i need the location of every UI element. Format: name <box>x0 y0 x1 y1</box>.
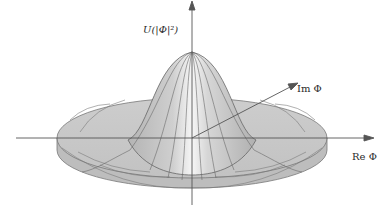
potential-diagram: U(|Φ|²) Im Φ Re Φ <box>0 0 390 213</box>
real-axis-arrow <box>364 135 374 141</box>
imaginary-axis-label: Im Φ <box>297 83 322 94</box>
real-axis-label: Re Φ <box>352 151 377 162</box>
surface-plot <box>0 0 390 213</box>
vertical-axis-label: U(|Φ|²) <box>143 24 178 35</box>
vertical-axis-arrow <box>189 1 195 10</box>
